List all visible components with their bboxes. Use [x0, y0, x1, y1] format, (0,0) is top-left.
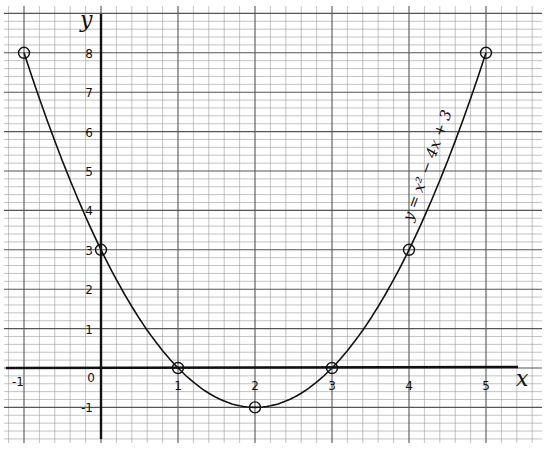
- y-axis-label: y: [79, 7, 93, 32]
- equation-annotation: y = x² − 4x + 3: [399, 107, 456, 224]
- y-tick-label: 2: [85, 283, 93, 297]
- x-axis-label: x: [516, 366, 529, 391]
- y-tick-label: 1: [85, 323, 93, 337]
- y-tick-label: 6: [85, 126, 93, 140]
- x-tick-label: 4: [405, 379, 413, 393]
- x-tick-label: 5: [482, 379, 490, 393]
- axes: [6, 14, 518, 439]
- y-tick-label: 7: [85, 86, 93, 100]
- x-tick-label: -1: [12, 375, 24, 389]
- x-tick-label: 2: [251, 379, 259, 393]
- y-tick-label: 3: [85, 244, 93, 258]
- y-tick-label: 5: [85, 165, 93, 179]
- minor-gridlines: [4, 6, 542, 443]
- y-tick-label: 4: [85, 204, 93, 218]
- x-tick-label: 3: [328, 379, 336, 393]
- x-tick-label: 1: [174, 379, 182, 393]
- x-tick-label: 0: [87, 371, 95, 385]
- graph-paper-plot: -1012345-112345678 x y y = x² − 4x + 3: [0, 0, 546, 449]
- y-tick-label: 8: [85, 47, 93, 61]
- y-tick-label: -1: [81, 401, 93, 415]
- major-gridlines: [4, 6, 542, 443]
- x-axis-line: [6, 367, 518, 368]
